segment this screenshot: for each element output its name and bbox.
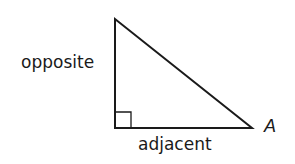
right-triangle [115,19,252,128]
angle-a-label: A [264,117,276,135]
opposite-label: opposite [21,54,94,71]
adjacent-label: adjacent [138,136,212,153]
right-angle-marker [115,112,131,128]
